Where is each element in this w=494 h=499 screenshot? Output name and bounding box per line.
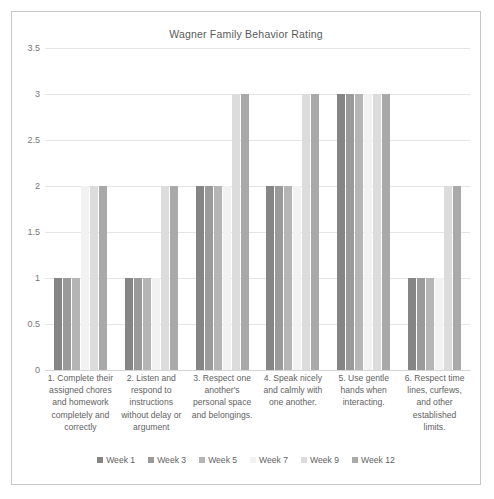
plot-area: 3.532.521.510.50: [45, 48, 470, 370]
x-axis-category-label: 4. Speak nicely and calmly with one anot…: [257, 372, 328, 433]
legend-swatch-icon: [352, 457, 358, 463]
bar[interactable]: [90, 186, 98, 370]
y-axis-tick-label: 2: [35, 181, 40, 191]
bar[interactable]: [284, 186, 292, 370]
bar[interactable]: [134, 278, 142, 370]
bar[interactable]: [143, 278, 151, 370]
legend-item[interactable]: Week 7: [250, 455, 288, 465]
bar[interactable]: [214, 186, 222, 370]
bar-group: [187, 48, 258, 370]
bar-group: [257, 48, 328, 370]
bar[interactable]: [232, 94, 240, 370]
bar[interactable]: [63, 278, 71, 370]
bar-group: [116, 48, 187, 370]
legend-swatch-icon: [199, 457, 205, 463]
chart-legend: Week 1Week 3Week 5Week 7Week 9Week 12: [12, 455, 480, 465]
y-axis-tick-label: 3: [35, 89, 40, 99]
y-axis-tick-label: 1: [35, 273, 40, 283]
x-axis-category-label: 5. Use gentle hands when interacting.: [328, 372, 399, 433]
legend-label: Week 3: [157, 455, 186, 465]
bar[interactable]: [453, 186, 461, 370]
bar[interactable]: [81, 186, 89, 370]
bar[interactable]: [346, 94, 354, 370]
axis-baseline: [45, 370, 470, 371]
bar[interactable]: [99, 186, 107, 370]
bar[interactable]: [223, 186, 231, 370]
legend-swatch-icon: [301, 457, 307, 463]
bar[interactable]: [355, 94, 363, 370]
bar[interactable]: [54, 278, 62, 370]
bar-group: [328, 48, 399, 370]
x-axis-category-label: 1. Complete their assigned chores and ho…: [45, 372, 116, 433]
bar[interactable]: [152, 278, 160, 370]
legend-label: Week 12: [361, 455, 395, 465]
x-axis-category-label: 2. Listen and respond to instructions wi…: [116, 372, 187, 433]
legend-item[interactable]: Week 9: [301, 455, 339, 465]
bar[interactable]: [444, 186, 452, 370]
bar[interactable]: [408, 278, 416, 370]
bar[interactable]: [435, 278, 443, 370]
bar-group: [399, 48, 470, 370]
legend-item[interactable]: Week 3: [148, 455, 186, 465]
x-axis-category-label: 3. Respect one another's personal space …: [187, 372, 258, 433]
bar[interactable]: [293, 186, 301, 370]
bar[interactable]: [426, 278, 434, 370]
bar[interactable]: [125, 278, 133, 370]
legend-item[interactable]: Week 5: [199, 455, 237, 465]
y-axis-tick-label: 0.5: [27, 319, 40, 329]
legend-label: Week 1: [106, 455, 135, 465]
legend-item[interactable]: Week 1: [97, 455, 135, 465]
y-axis-tick-label: 3.5: [27, 43, 40, 53]
bar[interactable]: [364, 94, 372, 370]
bar[interactable]: [302, 94, 310, 370]
bar[interactable]: [266, 186, 274, 370]
bar[interactable]: [311, 94, 319, 370]
bar[interactable]: [275, 186, 283, 370]
bar-series-layer: [45, 48, 470, 370]
bar[interactable]: [205, 186, 213, 370]
y-axis-tick-label: 0: [35, 365, 40, 375]
y-axis-tick-label: 1.5: [27, 227, 40, 237]
x-axis-category-labels: 1. Complete their assigned chores and ho…: [45, 372, 470, 433]
bar[interactable]: [170, 186, 178, 370]
chart-title: Wagner Family Behavior Rating: [12, 28, 480, 40]
bar[interactable]: [373, 94, 381, 370]
chart-container: Wagner Family Behavior Rating 3.532.521.…: [11, 11, 481, 485]
legend-swatch-icon: [250, 457, 256, 463]
bar[interactable]: [72, 278, 80, 370]
bar[interactable]: [417, 278, 425, 370]
bar[interactable]: [337, 94, 345, 370]
legend-label: Week 5: [208, 455, 237, 465]
bar-group: [45, 48, 116, 370]
legend-swatch-icon: [97, 457, 103, 463]
bar[interactable]: [196, 186, 204, 370]
legend-label: Week 7: [259, 455, 288, 465]
bar[interactable]: [382, 94, 390, 370]
x-axis-category-label: 6. Respect time lines, curfews, and othe…: [399, 372, 470, 433]
legend-swatch-icon: [148, 457, 154, 463]
y-axis-tick-label: 2.5: [27, 135, 40, 145]
bar[interactable]: [161, 186, 169, 370]
legend-item[interactable]: Week 12: [352, 455, 395, 465]
bar[interactable]: [241, 94, 249, 370]
legend-label: Week 9: [310, 455, 339, 465]
